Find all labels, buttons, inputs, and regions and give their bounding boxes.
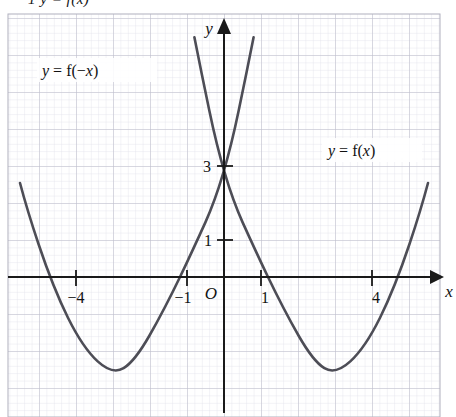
graph-plot-area: −4 −1 1 4 1 3 y x O y = f(−x) y = f(x): [0, 8, 456, 417]
figure-page: 1 y = f(x): [0, 0, 456, 417]
x-axis-label: x: [444, 282, 453, 301]
x-tick-label-4: 4: [372, 289, 380, 306]
right-curve-label: y = f(x): [326, 142, 375, 160]
coordinate-graph: −4 −1 1 4 1 3 y x O y = f(−x) y = f(x): [0, 8, 456, 417]
y-tick-label-3: 3: [203, 158, 211, 175]
x-tick-label--1: −1: [174, 289, 191, 306]
y-axis-label: y: [203, 19, 213, 38]
x-tick-label--4: −4: [67, 289, 84, 306]
x-tick-label-1: 1: [261, 289, 269, 306]
y-tick-label-1: 1: [204, 232, 212, 249]
origin-label: O: [205, 284, 217, 303]
left-curve-label: y = f(−x): [40, 62, 98, 80]
